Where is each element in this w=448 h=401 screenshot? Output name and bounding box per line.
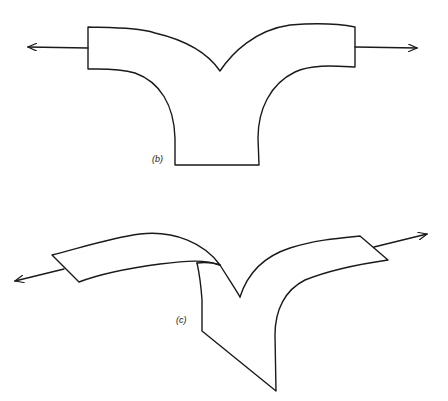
figure-b-label: (b) <box>152 154 163 164</box>
figure-c-shape <box>52 233 388 391</box>
figure-b-shape <box>88 24 355 165</box>
figure-b-right-arrow <box>355 47 417 48</box>
figure-c-right-arrow <box>374 234 427 247</box>
figure-c-label: (c) <box>176 315 187 325</box>
figure-c-left-arrow <box>15 269 64 281</box>
diagram-canvas: (b) (c) <box>0 0 448 401</box>
diagram-drawing <box>0 0 448 401</box>
figure-b-left-arrow <box>28 47 88 48</box>
